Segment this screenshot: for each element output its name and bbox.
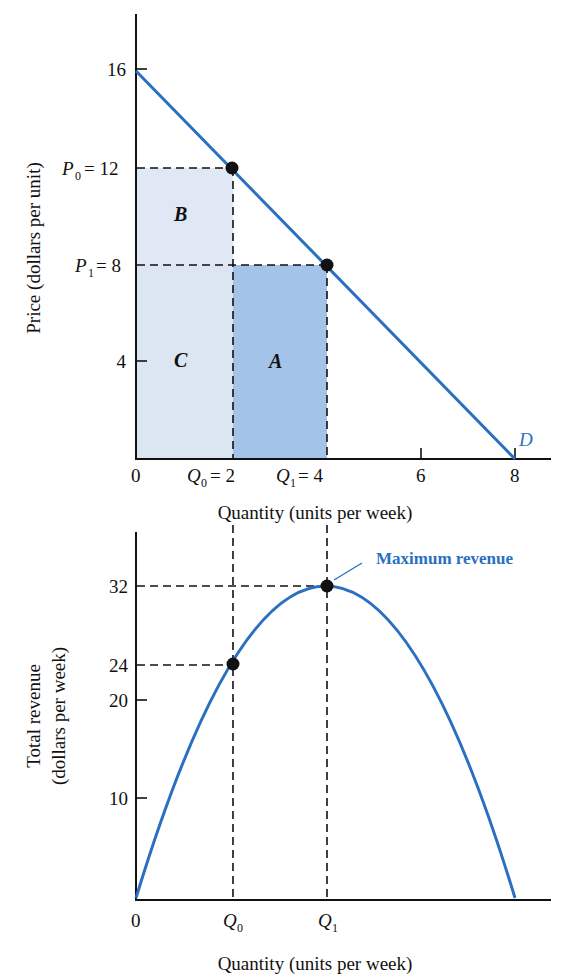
x-tick-0: 0 [131, 465, 141, 486]
bottom-y-axis-label-line2: (dollars per week) [48, 647, 70, 785]
q0-revenue-label: Q 0 [223, 910, 243, 935]
svg-text:Q: Q [276, 465, 290, 486]
x-tick-8: 8 [510, 465, 520, 486]
svg-text:Q: Q [318, 910, 332, 931]
point-p0-q0 [226, 162, 239, 175]
y-tick-32: 32 [109, 576, 128, 597]
figure: B C A 16 4 P 0 = 12 P 1 = 8 0 Q 0 = 2 Q … [0, 0, 567, 980]
annotation-leader [334, 563, 362, 580]
y-tick-10: 10 [109, 788, 128, 809]
svg-text:0: 0 [201, 476, 207, 490]
x-tick-6: 6 [416, 465, 426, 486]
svg-text:= 4: = 4 [298, 465, 323, 486]
p1-label: P 1 = 8 [74, 255, 121, 280]
bottom-x-axis-label: Quantity (units per week) [218, 953, 413, 975]
maximum-revenue-annotation: Maximum revenue [376, 549, 514, 568]
q1-label: Q 1 = 4 [276, 465, 323, 490]
p0-label: P 0 = 12 [61, 158, 118, 183]
region-b-label: B [173, 203, 187, 225]
svg-text:1: 1 [290, 476, 296, 490]
point-p1-q1 [321, 259, 334, 272]
svg-text:= 2: = 2 [210, 465, 235, 486]
svg-text:= 8: = 8 [96, 255, 121, 276]
top-y-axis-label: Price (dollars per unit) [23, 162, 45, 333]
y-tick-4: 4 [117, 351, 127, 372]
y-tick-16: 16 [107, 59, 126, 80]
svg-text:P: P [61, 158, 74, 179]
point-q1-max-revenue [321, 580, 334, 593]
y-tick-20: 20 [109, 690, 128, 711]
region-c-label: C [174, 349, 188, 371]
bottom-y-axis-label-line1: Total revenue [23, 664, 44, 768]
svg-text:Q: Q [223, 910, 237, 931]
svg-text:1: 1 [332, 921, 338, 935]
q0-label: Q 0 = 2 [187, 465, 235, 490]
svg-text:Q: Q [187, 465, 201, 486]
total-revenue-curve [136, 586, 515, 898]
total-revenue-chart: Maximum revenue 32 24 20 10 0 Q 0 Q 1 Qu… [23, 525, 551, 975]
q1-revenue-label: Q 1 [318, 910, 338, 935]
demand-label: D [518, 429, 533, 450]
price-quantity-chart: B C A 16 4 P 0 = 12 P 1 = 8 0 Q 0 = 2 Q … [23, 14, 551, 524]
region-a-label: A [267, 350, 282, 372]
svg-text:P: P [74, 255, 87, 276]
revenue-x-tick-0: 0 [131, 910, 141, 931]
top-x-axis-label: Quantity (units per week) [218, 502, 413, 524]
svg-text:= 12: = 12 [84, 158, 118, 179]
svg-text:0: 0 [237, 921, 243, 935]
y-tick-24: 24 [109, 655, 129, 676]
svg-text:1: 1 [88, 266, 94, 280]
svg-text:0: 0 [75, 169, 81, 183]
point-q0-revenue [227, 658, 240, 671]
